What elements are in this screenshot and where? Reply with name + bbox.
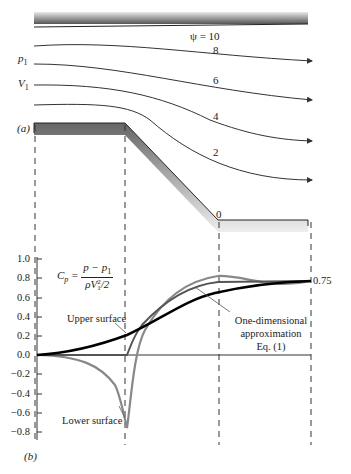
ytick-0.8: 0.8	[0, 273, 30, 284]
p1-label: p1	[18, 53, 28, 67]
one-dim-label: One-dimensional approximation Eq. (1)	[231, 314, 311, 353]
psi-0-label: 0	[216, 209, 222, 220]
top-wall	[34, 12, 308, 27]
panel-a-label: (a)	[17, 123, 30, 134]
ytick-1.0: 1.0	[0, 254, 30, 265]
ytick-neg-0.4: −0.4	[0, 389, 30, 400]
v-symbol: V	[18, 77, 25, 89]
psi-8-label: 8	[213, 45, 219, 56]
ytick-0.6: 0.6	[0, 293, 30, 304]
bottom-wall	[34, 123, 308, 232]
ytick-0.0: 0.0	[0, 350, 30, 361]
cp-subscript: p	[64, 275, 68, 284]
y-axis	[37, 257, 42, 440]
end-value-label: 0.75	[313, 276, 331, 287]
psi-4-label: 4	[213, 111, 219, 122]
upper-surface-label: Upper surface	[67, 312, 126, 325]
cp-fraction: p − p1 ρV21/2	[81, 262, 113, 291]
figure-canvas	[0, 0, 351, 474]
ytick-neg-0.2: −0.2	[0, 369, 30, 380]
numerator-subscript: 1	[107, 267, 111, 276]
streamlines	[34, 45, 312, 180]
denominator-tail: /2	[101, 278, 110, 290]
psi-10-label: ψ = 10	[190, 31, 220, 42]
one-dim-line-2: approximation	[231, 327, 311, 340]
ytick-neg-0.8: −0.8	[0, 427, 30, 438]
psi-6-label: 6	[213, 75, 219, 86]
psi-2-label: 2	[213, 147, 219, 158]
ytick-0.4: 0.4	[0, 312, 30, 323]
panel-b-label: (b)	[24, 451, 37, 462]
v-subscript: 1	[25, 83, 29, 92]
denominator: ρV	[85, 278, 97, 290]
p-subscript: 1	[24, 58, 28, 67]
one-dim-line-1: One-dimensional	[231, 314, 311, 327]
v1-label: V1	[18, 78, 29, 92]
one-dim-line-3: Eq. (1)	[231, 340, 311, 353]
lower-surface-label: Lower surface	[62, 414, 122, 427]
numerator: p − p	[83, 261, 107, 273]
cp-formula: Cp = p − p1 ρV21/2	[57, 262, 113, 291]
ytick-neg-0.6: −0.6	[0, 408, 30, 419]
ytick-0.2: 0.2	[0, 331, 30, 342]
